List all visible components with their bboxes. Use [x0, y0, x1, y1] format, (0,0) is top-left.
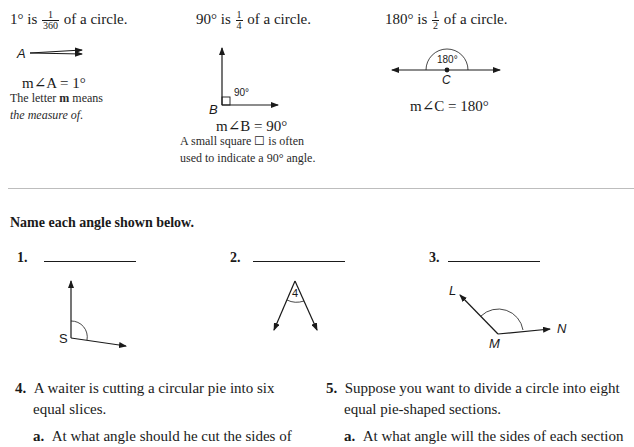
question-3-answer-blank[interactable]	[448, 261, 540, 262]
heading-prefix: 180° is	[385, 11, 427, 27]
heading-prefix: 90° is	[196, 11, 231, 27]
problem-4a-label: a.	[33, 428, 44, 444]
problem-5: 5. Suppose you want to divide a circle i…	[326, 378, 624, 447]
note-line-2: used to indicate a 90° angle.	[180, 150, 315, 167]
problem-4: 4. A waiter is cutting a circular pie in…	[15, 378, 292, 447]
note-line-1: The letter m means	[10, 90, 103, 107]
section-divider	[8, 188, 634, 189]
question-1-answer-blank[interactable]	[44, 261, 136, 262]
problem-4a-text: At what angle should he cut the sides of	[52, 428, 292, 444]
angle-label-180: 180°	[437, 54, 458, 65]
measure-c: m∠C = 180°	[410, 97, 489, 115]
note-bold-m: m	[59, 91, 69, 105]
problem-5-text-1: Suppose you want to divide a circle into…	[345, 380, 620, 396]
ray-label-n: N	[557, 321, 567, 336]
angle-label-90: 90°	[234, 87, 249, 98]
problem-5a: a. At what angle will the sides of each …	[326, 426, 624, 447]
angle-b-figure: 90° B	[209, 48, 278, 117]
question-2-answer-blank[interactable]	[253, 261, 345, 262]
vertex-label-s: S	[59, 331, 68, 346]
question-3-number: 3.	[429, 250, 440, 266]
note-line-1: A small square ☐ is often	[180, 133, 315, 150]
angle-c-figure: 180° C	[392, 49, 500, 87]
ray-label-l: L	[449, 283, 456, 298]
fraction-denominator: 4	[236, 21, 243, 31]
problem-4a: a. At what angle should he cut the sides…	[15, 426, 292, 447]
problem-5a-label: a.	[344, 428, 355, 444]
note-line-2: the measure of.	[10, 107, 103, 124]
heading-suffix: of a circle.	[444, 11, 508, 27]
right-angle-square-icon	[222, 97, 230, 105]
vertex-point-c	[445, 68, 450, 73]
vertex-label-m: M	[489, 336, 500, 351]
problem-5-line-2: equal pie-shaped sections.	[326, 399, 624, 420]
vertex-label-b: B	[209, 102, 218, 117]
problem-4-line-1: 4. A waiter is cutting a circular pie in…	[15, 378, 292, 399]
intro-heading-180-degree: 180° is 12 of a circle.	[385, 10, 507, 31]
fraction-denominator: 2	[432, 21, 439, 31]
problem-4-line-2: equal slices.	[15, 399, 292, 420]
intro-heading-90-degree: 90° is 14 of a circle.	[196, 10, 311, 31]
problem-4-number: 4.	[15, 380, 26, 396]
fraction-1-4: 14	[236, 10, 243, 31]
angle-a-figure: A	[16, 46, 82, 61]
problem-5a-text: At what angle will the sides of each sec…	[363, 428, 624, 444]
question-2-angle-figure: 4	[274, 281, 317, 330]
note-measure-meaning: The letter m means the measure of.	[10, 90, 103, 124]
fraction-1-2: 12	[432, 10, 439, 31]
note-italic: the measure of.	[10, 108, 83, 122]
question-1-number: 1.	[17, 250, 28, 266]
problem-4-text-1: A waiter is cutting a circular pie into …	[34, 380, 275, 396]
instruction-heading: Name each angle shown below.	[10, 215, 194, 231]
problem-5-line-1: 5. Suppose you want to divide a circle i…	[326, 378, 624, 399]
note-right-angle: A small square ☐ is often used to indica…	[180, 133, 315, 167]
vertex-label-c: C	[442, 73, 451, 87]
question-1-angle-figure: S	[59, 281, 126, 346]
vertex-label-a: A	[16, 46, 26, 61]
question-3-angle-figure: L M N	[449, 283, 567, 351]
angle-label-4: 4	[292, 287, 298, 299]
question-2-number: 2.	[230, 250, 241, 266]
heading-suffix: of a circle.	[247, 11, 311, 27]
problem-5-number: 5.	[326, 380, 337, 396]
